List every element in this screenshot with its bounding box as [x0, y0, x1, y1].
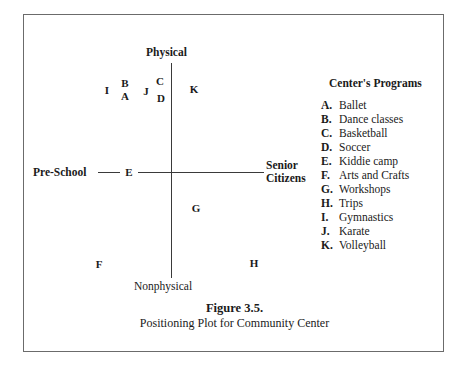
legend-item-key: J.	[321, 224, 339, 238]
axis-label-nonphysical: Nonphysical	[134, 280, 192, 292]
legend-item: F.Arts and Crafts	[321, 168, 439, 182]
legend-item-key: E.	[321, 154, 339, 168]
legend-item: J.Karate	[321, 224, 439, 238]
legend-item: D.Soccer	[321, 140, 439, 154]
legend-item-label: Trips	[339, 196, 363, 210]
axis-label-physical: Physical	[146, 46, 187, 58]
legend-item: H.Trips	[321, 196, 439, 210]
legend-item-key: F.	[321, 168, 339, 182]
legend-item-key: A.	[321, 98, 339, 112]
plot-point-k: K	[190, 84, 199, 95]
legend-item-key: C.	[321, 126, 339, 140]
plot-point-g: G	[192, 203, 201, 214]
legend-item-key: H.	[321, 196, 339, 210]
legend-item: A.Ballet	[321, 98, 439, 112]
legend-item-key: D.	[321, 140, 339, 154]
legend-item-label: Arts and Crafts	[339, 168, 409, 182]
legend-item-label: Workshops	[339, 182, 390, 196]
legend-item: C.Basketball	[321, 126, 439, 140]
legend-item-key: I.	[321, 210, 339, 224]
legend-item: B.Dance classes	[321, 112, 439, 126]
legend-item: K.Volleyball	[321, 238, 439, 252]
plot-point-b: B	[121, 78, 128, 89]
legend-item-key: K.	[321, 238, 339, 252]
legend-item-label: Basketball	[339, 126, 388, 140]
plot-point-e: E	[125, 167, 132, 178]
legend-item-key: G.	[321, 182, 339, 196]
plot-point-f: F	[96, 259, 103, 270]
vertical-axis-line	[171, 63, 172, 278]
legend-item-label: Kiddie camp	[339, 154, 398, 168]
legend-item: E.Kiddie camp	[321, 154, 439, 168]
plot-point-i: I	[105, 85, 109, 96]
legend-item-label: Dance classes	[339, 112, 403, 126]
figure-frame: Physical Nonphysical Pre-School Senior C…	[23, 14, 444, 352]
legend-item-key: B.	[321, 112, 339, 126]
plot-point-j: J	[143, 86, 149, 97]
legend-item-label: Volleyball	[339, 238, 386, 252]
horizontal-axis-line-right	[138, 172, 264, 173]
caption-title: Figure 3.5.	[24, 301, 445, 316]
axis-label-pre-school: Pre-School	[33, 166, 86, 178]
horizontal-axis-line-left	[98, 172, 120, 173]
legend-item-label: Soccer	[339, 140, 370, 154]
caption-subtitle: Positioning Plot for Community Center	[24, 316, 445, 331]
legend-item-label: Ballet	[339, 98, 366, 112]
legend-items: A.BalletB.Dance classesC.BasketballD.Soc…	[321, 98, 439, 252]
plot-point-a: A	[121, 91, 129, 102]
legend-item-label: Gymnastics	[339, 210, 393, 224]
legend-item: G.Workshops	[321, 182, 439, 196]
legend-title: Center's Programs	[329, 77, 439, 89]
legend-item: I.Gymnastics	[321, 210, 439, 224]
plot-point-h: H	[250, 258, 259, 269]
figure-caption: Figure 3.5. Positioning Plot for Communi…	[24, 301, 445, 331]
legend-item-label: Karate	[339, 224, 370, 238]
plot-point-c: C	[156, 76, 164, 87]
legend: Center's Programs A.BalletB.Dance classe…	[321, 77, 439, 252]
plot-point-d: D	[157, 93, 165, 104]
